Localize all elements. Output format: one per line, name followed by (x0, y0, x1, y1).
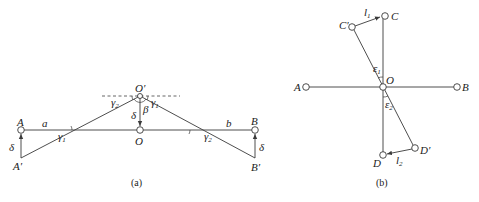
caption-b: (b) (376, 177, 388, 189)
label-gamma1-left: γ1 (58, 130, 66, 144)
label-o: O (135, 135, 143, 147)
label-b-prime: B′ (251, 161, 261, 173)
angle-arc-gamma1-left (71, 126, 72, 130)
node-d-prime (412, 145, 419, 152)
label-gamma1-right: γ1 (151, 96, 159, 110)
label-o-prime: O′ (135, 82, 146, 94)
angle-arc-gamma2-left (132, 96, 133, 100)
label-segment-b: b (226, 117, 232, 129)
label-delta-a: δ (9, 141, 15, 153)
label-segment-a: a (42, 117, 48, 129)
label-beta: β (142, 103, 149, 115)
angle-arc-gamma2-right (189, 130, 190, 134)
diagram-canvas: A A′ δ a γ1 O′ γ2 γ1 δ β O b γ2 B δ B′ (… (0, 0, 479, 202)
displacement-arrow-l2 (387, 149, 412, 154)
angle-arc-eps2 (383, 96, 388, 97)
node-o-prime (138, 94, 143, 99)
label-eps1: ε1 (373, 62, 381, 76)
label-c: C (391, 10, 399, 22)
angle-arc-eps1 (378, 77, 383, 78)
label-a: A (293, 81, 301, 93)
node-b (454, 84, 461, 91)
label-b: B (251, 115, 258, 127)
label-l1: l1 (364, 6, 371, 20)
label-c-prime: C′ (339, 19, 349, 31)
label-d-prime: D′ (419, 144, 431, 156)
label-gamma2-right: γ2 (204, 130, 212, 144)
node-c-prime (349, 24, 356, 31)
label-l2: l2 (396, 154, 403, 168)
figure-a: A A′ δ a γ1 O′ γ2 γ1 δ β O b γ2 B δ B′ (… (9, 82, 265, 189)
node-b (252, 127, 259, 134)
line-a-prime-o-prime (21, 96, 140, 158)
label-delta-b: δ (259, 141, 265, 153)
label-delta-o: δ (131, 109, 137, 121)
node-a (303, 84, 310, 91)
label-a: A (16, 116, 24, 128)
label-b: B (462, 81, 469, 93)
label-a-prime: A′ (12, 160, 23, 172)
label-eps2: ε2 (385, 98, 393, 112)
caption-a: (a) (131, 177, 142, 189)
node-o (137, 127, 144, 134)
label-gamma2-left: γ2 (111, 96, 119, 110)
angle-arc-gamma1-right (147, 96, 148, 100)
label-d: D (372, 157, 381, 169)
label-o: O (386, 74, 394, 86)
node-c (382, 13, 389, 20)
figure-b: A B O C C′ l1 ε1 ε2 D D′ l2 (b) (293, 6, 469, 189)
